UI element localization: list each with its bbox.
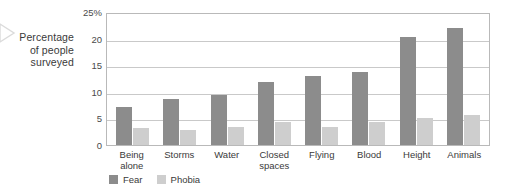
y-axis-caption-line-1: Percentage: [12, 31, 74, 44]
bar-fear: [258, 82, 274, 145]
bar-group: [396, 14, 436, 145]
x-category-label-line-1: Closed: [252, 149, 296, 160]
bar-phobia: [133, 128, 149, 145]
bar-phobia: [369, 122, 385, 145]
x-category-label: Storms: [157, 149, 201, 171]
bar-fear: [163, 99, 179, 145]
x-axis-category-labels: BeingaloneStormsWaterClosedspacesFlyingB…: [106, 149, 490, 171]
bar-group: [207, 14, 247, 145]
legend-swatch-icon: [157, 175, 166, 184]
bar-chart-figure: Percentage of people surveyed 0510152025…: [0, 0, 508, 195]
chart-legend: FearPhobia: [109, 175, 200, 185]
x-category-label: Flying: [300, 149, 344, 171]
x-category-label-line-1: Storms: [157, 149, 201, 160]
bar-group: [302, 14, 342, 145]
y-axis-tick-labels: 0510152025%: [68, 0, 102, 195]
bar-group: [254, 14, 294, 145]
y-axis-caption-line-3: surveyed: [12, 56, 74, 69]
x-category-label: Animals: [442, 149, 486, 171]
x-category-label-line-1: Being: [110, 149, 154, 160]
plot-area: [106, 13, 490, 146]
bar-group: [113, 14, 153, 145]
bar-fear: [305, 76, 321, 145]
x-category-label: Water: [205, 149, 249, 171]
y-tick-label: 10: [68, 88, 102, 98]
x-category-label-line-1: Height: [395, 149, 439, 160]
bar-group: [160, 14, 200, 145]
x-category-label-line-2: alone: [110, 160, 154, 171]
x-category-label: Beingalone: [110, 149, 154, 171]
y-axis-caption-line-2: of people: [12, 44, 74, 57]
y-tick-label: 15: [68, 61, 102, 71]
legend-label: Fear: [123, 175, 143, 185]
bar-phobia: [180, 130, 196, 145]
y-axis-caption: Percentage of people surveyed: [12, 31, 74, 69]
y-tick-label: 25%: [68, 8, 102, 18]
bar-groups: [107, 14, 489, 145]
x-category-label-line-1: Water: [205, 149, 249, 160]
bar-phobia: [228, 127, 244, 145]
x-category-label-line-1: Flying: [300, 149, 344, 160]
x-category-label: Closedspaces: [252, 149, 296, 171]
bar-phobia: [275, 122, 291, 145]
legend-item-phobia[interactable]: Phobia: [157, 175, 201, 185]
x-category-label-line-2: spaces: [252, 160, 296, 171]
y-tick-label: 0: [68, 141, 102, 151]
bar-group: [349, 14, 389, 145]
y-tick-label: 5: [68, 114, 102, 124]
bar-phobia: [417, 118, 433, 145]
bar-fear: [447, 28, 463, 145]
x-category-label-line-1: Animals: [442, 149, 486, 160]
bar-fear: [400, 37, 416, 145]
bar-phobia: [322, 127, 338, 145]
bar-group: [443, 14, 483, 145]
bar-phobia: [464, 115, 480, 145]
legend-swatch-icon: [109, 175, 118, 184]
x-category-label: Height: [395, 149, 439, 171]
bar-fear: [116, 107, 132, 145]
legend-item-fear[interactable]: Fear: [109, 175, 143, 185]
y-tick-label: 20: [68, 35, 102, 45]
x-category-label: Blood: [347, 149, 391, 171]
legend-label: Phobia: [171, 175, 201, 185]
bar-fear: [352, 72, 368, 145]
bar-fear: [211, 95, 227, 145]
x-category-label-line-1: Blood: [347, 149, 391, 160]
